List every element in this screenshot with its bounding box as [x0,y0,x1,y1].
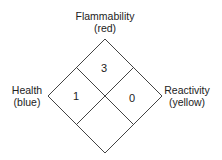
health-color-note: (blue) [2,96,52,108]
flammability-label: Flammability (red) [65,10,145,34]
reactivity-value: 0 [122,92,142,104]
health-name: Health [2,84,52,96]
health-label: Health (blue) [2,84,52,108]
flammability-value: 3 [94,62,114,74]
flammability-color-note: (red) [65,22,145,34]
reactivity-color-note: (yellow) [160,96,214,108]
reactivity-label: Reactivity (yellow) [160,84,214,108]
health-value: 1 [66,90,86,102]
reactivity-name: Reactivity [160,84,214,96]
flammability-name: Flammability [65,10,145,22]
